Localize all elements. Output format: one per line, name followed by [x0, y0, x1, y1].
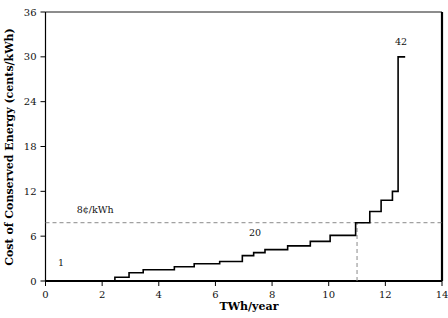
x-tick-label: 8 — [269, 289, 275, 300]
x-tick-label: 12 — [379, 289, 392, 300]
y-tick-label: 18 — [24, 141, 37, 152]
segment-label-20: 20 — [249, 227, 261, 238]
segment-label-1: 1 — [58, 257, 64, 268]
x-axis-title: TWh/year — [220, 300, 279, 313]
y-tick-label: 6 — [30, 231, 36, 242]
y-axis-title: Cost of Conserved Energy (cents/kWh) — [3, 28, 16, 266]
chart-container: 02468101214 061218243036 8¢/kWh 12042 TW… — [0, 0, 448, 318]
segment-label-42: 42 — [395, 36, 407, 47]
chart-background — [0, 0, 448, 318]
y-tick-label: 0 — [30, 276, 36, 287]
x-tick-label: 4 — [156, 289, 162, 300]
x-tick-label: 10 — [322, 289, 335, 300]
step-chart: 02468101214 061218243036 8¢/kWh 12042 TW… — [0, 0, 448, 318]
x-tick-label: 6 — [212, 289, 218, 300]
x-tick-label: 2 — [99, 289, 105, 300]
reference-label-cost-threshold: 8¢/kWh — [77, 204, 114, 215]
y-tick-label: 12 — [24, 186, 37, 197]
y-tick-label: 30 — [24, 51, 37, 62]
x-tick-label: 0 — [42, 289, 48, 300]
x-tick-label: 14 — [436, 289, 448, 300]
y-tick-label: 24 — [24, 96, 37, 107]
y-tick-label: 36 — [24, 7, 37, 18]
